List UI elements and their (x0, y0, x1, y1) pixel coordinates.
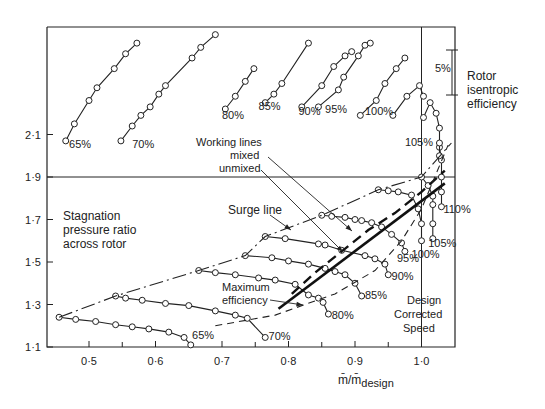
pressure-point (56, 314, 62, 320)
pressure-point (369, 220, 375, 226)
x-tick-label: 0·5 (81, 355, 97, 367)
efficiency-speed-label: 100% (365, 105, 393, 117)
y-tick-label: 1·7 (25, 214, 41, 226)
pressure-point (395, 189, 401, 195)
pressure-point (212, 308, 218, 314)
pressure-point (430, 221, 436, 227)
x-tick-label: 0·9 (347, 355, 363, 367)
pressure-point (188, 342, 194, 348)
pressure-point (286, 258, 292, 264)
efficiency-point (198, 44, 204, 50)
pressure-point (342, 272, 348, 278)
efficiency-point (335, 87, 341, 93)
y-tick-label: 1·1 (25, 341, 41, 353)
pressure-point (438, 174, 444, 180)
efficiency-point (382, 81, 388, 87)
design-label-1: Design (407, 294, 441, 306)
pressure-point (162, 300, 168, 306)
y-tick-label: 1·9 (25, 171, 41, 183)
pressure-point (385, 188, 391, 194)
x-tick-label: 0·7 (214, 355, 230, 367)
efficiency-point (232, 93, 238, 99)
pressure-speed-label: 70% (269, 330, 291, 342)
ylabel-line3: across rotor (63, 237, 126, 251)
pressure-point (332, 269, 338, 275)
efficiency-point (341, 74, 347, 80)
pressure-point (181, 334, 187, 340)
pressure-point (269, 255, 275, 261)
pressure-point (322, 242, 328, 248)
pressure-point (73, 316, 79, 322)
y-tick-label: 2·1 (25, 129, 41, 141)
pressure-point (232, 272, 238, 278)
pressure-point (329, 213, 335, 219)
efficiency-point (349, 49, 355, 55)
efficiency-point (251, 66, 257, 72)
pressure-point (139, 297, 145, 303)
pressure-point (292, 281, 298, 287)
efficiency-point (63, 138, 69, 144)
xlabel-main: m̄/m̄design (338, 373, 394, 389)
efficiency-point (436, 140, 442, 146)
efficiency-point (94, 85, 100, 91)
efficiency-point (342, 53, 348, 59)
pressure-point (419, 238, 425, 244)
efficiency-point (71, 121, 77, 127)
pressure-point (212, 270, 218, 276)
eff-label-line2: isentropic (467, 83, 518, 97)
pressure-point (129, 324, 135, 330)
efficiency-point (420, 115, 426, 121)
pressure-speed-label: 110% (443, 203, 471, 215)
pressure-point (319, 212, 325, 218)
pressure-point (430, 202, 436, 208)
pressure-speed-label: 100% (412, 248, 440, 260)
design-label-3: Speed (403, 322, 435, 334)
efficiency-point (162, 83, 168, 89)
pressure-point (419, 221, 425, 227)
pressure-point (409, 192, 415, 198)
text-labels: Stagnation pressure ratio across rotor R… (63, 62, 518, 389)
efficiency-point (367, 40, 373, 46)
design-label-2: Corrected (394, 308, 442, 320)
eff-label-line1: Rotor (467, 69, 496, 83)
pressure-point (389, 231, 395, 237)
efficiency-point (436, 125, 442, 131)
efficiency-point (138, 112, 144, 118)
efficiency-point (433, 110, 439, 116)
efficiency-point (427, 100, 433, 106)
pressure-point (362, 253, 368, 259)
pressure-point (315, 241, 321, 247)
pressure-speed-label: 85% (365, 289, 387, 301)
working-lines-label: Working lines (196, 136, 262, 148)
pressure-point (113, 322, 119, 328)
efficiency-speed-label: 85% (259, 100, 281, 112)
pressure-point (438, 189, 444, 195)
efficiency-point (189, 55, 195, 61)
efficiency-point (118, 138, 124, 144)
efficiency-point (404, 93, 410, 99)
efficiency-line-80pct (225, 69, 254, 109)
pressure-point (272, 277, 278, 283)
efficiency-point (147, 104, 153, 110)
pressure-point (359, 293, 365, 299)
efficiency-speed-label: 105% (405, 136, 433, 148)
eff-scale-label: 5% (435, 62, 451, 74)
efficiency-point (156, 91, 162, 97)
efficiency-point (212, 32, 218, 38)
efficiency-point (279, 81, 285, 87)
efficiency-point (86, 98, 92, 104)
efficiency-point (355, 53, 361, 59)
pressure-point (166, 329, 172, 335)
pressure-point (359, 218, 365, 224)
x-tick-label: 1·0 (414, 355, 430, 367)
efficiency-point (393, 66, 399, 72)
y-tick-label: 1·3 (25, 299, 41, 311)
pressure-point (305, 261, 311, 267)
pressure-point (385, 272, 391, 278)
efficiency-line-105pct (393, 86, 424, 116)
efficiency-point (331, 64, 337, 70)
efficiency-point (417, 83, 423, 89)
pressure-line-100pct (378, 190, 421, 241)
eff-label-line3: efficiency (467, 97, 517, 111)
efficiency-speed-label: 90% (298, 105, 320, 117)
